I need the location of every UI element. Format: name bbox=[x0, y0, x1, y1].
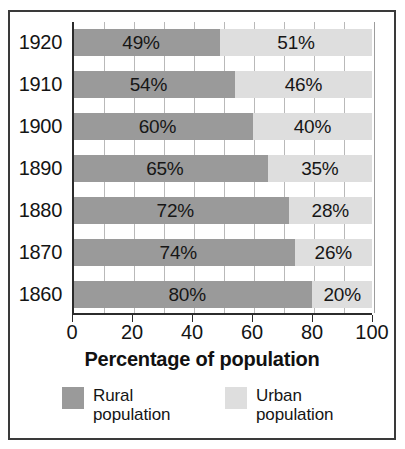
bar-segment-urban: 51% bbox=[220, 29, 372, 56]
legend-swatch bbox=[225, 387, 247, 409]
bar-segment-urban: 26% bbox=[295, 239, 372, 266]
category-label: 1860 bbox=[2, 281, 62, 308]
bar-segment-rural: 65% bbox=[74, 155, 268, 182]
bar-row: 60%40% bbox=[74, 113, 372, 140]
category-label: 1900 bbox=[2, 113, 62, 140]
x-tick-label: 40 bbox=[181, 322, 203, 342]
bar-segment-urban: 40% bbox=[253, 113, 372, 140]
bar-segment-rural: 74% bbox=[74, 239, 295, 266]
bar-segment-rural: 80% bbox=[74, 281, 312, 308]
legend-label: Urban population bbox=[256, 386, 333, 424]
bar-segment-rural: 60% bbox=[74, 113, 253, 140]
bar-segment-rural: 54% bbox=[74, 71, 235, 98]
legend-label: Rural population bbox=[93, 386, 170, 424]
bar-value-label-urban: 20% bbox=[312, 285, 372, 304]
x-tick-label: 80 bbox=[301, 322, 323, 342]
category-label: 1880 bbox=[2, 197, 62, 224]
bar-value-label-rural: 60% bbox=[68, 117, 247, 136]
legend-item: Rural population bbox=[62, 386, 170, 424]
bar-segment-urban: 20% bbox=[312, 281, 372, 308]
bar-value-label-urban: 35% bbox=[268, 159, 372, 178]
bar-value-label-rural: 65% bbox=[68, 159, 262, 178]
x-axis-ticks: 020406080100 bbox=[72, 318, 372, 346]
bar-segment-rural: 72% bbox=[74, 197, 289, 224]
gridline bbox=[374, 22, 375, 313]
bar-row: 49%51% bbox=[74, 29, 372, 56]
x-tick-label: 20 bbox=[121, 322, 143, 342]
legend-swatch bbox=[62, 387, 84, 409]
bar-value-label-urban: 46% bbox=[235, 75, 372, 94]
bar-rows: 49%51%54%46%60%40%65%35%72%28%74%26%80%2… bbox=[74, 22, 372, 313]
bar-value-label-rural: 54% bbox=[68, 75, 229, 94]
bar-value-label-urban: 26% bbox=[295, 243, 372, 262]
bar-segment-urban: 35% bbox=[268, 155, 372, 182]
bar-value-label-rural: 80% bbox=[68, 285, 306, 304]
bar-segment-urban: 28% bbox=[289, 197, 372, 224]
bar-segment-urban: 46% bbox=[235, 71, 372, 98]
x-tick-label: 100 bbox=[355, 322, 388, 342]
bar-row: 74%26% bbox=[74, 239, 372, 266]
bar-row: 80%20% bbox=[74, 281, 372, 308]
bar-value-label-rural: 72% bbox=[68, 201, 283, 220]
bar-value-label-rural: 74% bbox=[68, 243, 289, 262]
category-label: 1910 bbox=[2, 71, 62, 98]
bar-row: 65%35% bbox=[74, 155, 372, 182]
chart-figure: 49%51%54%46%60%40%65%35%72%28%74%26%80%2… bbox=[8, 10, 396, 440]
bar-value-label-urban: 51% bbox=[220, 33, 372, 52]
x-tick-label: 60 bbox=[241, 322, 263, 342]
legend-item: Urban population bbox=[225, 386, 333, 424]
bar-segment-rural: 49% bbox=[74, 29, 220, 56]
bar-value-label-urban: 40% bbox=[253, 117, 372, 136]
x-axis-title: Percentage of population bbox=[10, 348, 394, 371]
bar-row: 54%46% bbox=[74, 71, 372, 98]
bar-row: 72%28% bbox=[74, 197, 372, 224]
bar-value-label-rural: 49% bbox=[68, 33, 214, 52]
category-label: 1920 bbox=[2, 29, 62, 56]
category-label: 1870 bbox=[2, 239, 62, 266]
x-tick-label: 0 bbox=[66, 322, 77, 342]
chart-legend: Rural populationUrban population bbox=[10, 386, 394, 436]
bar-value-label-urban: 28% bbox=[289, 201, 372, 220]
plot-area: 49%51%54%46%60%40%65%35%72%28%74%26%80%2… bbox=[72, 22, 372, 315]
category-label: 1890 bbox=[2, 155, 62, 182]
